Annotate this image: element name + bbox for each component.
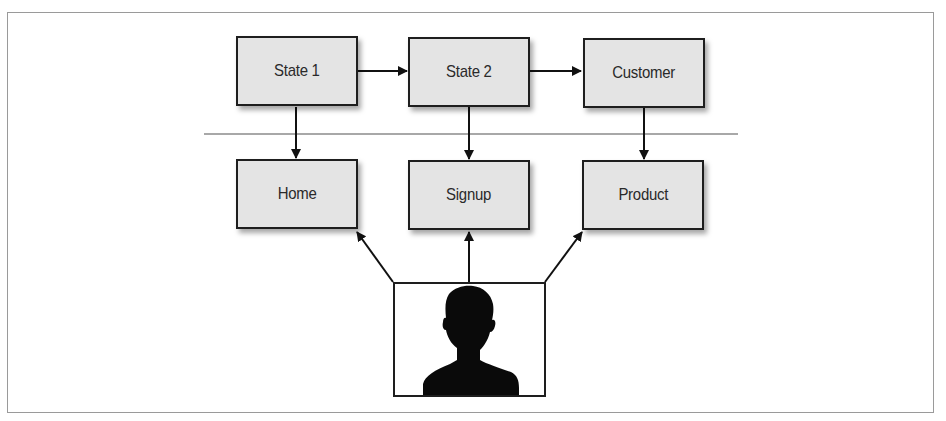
node-label: Product xyxy=(618,185,668,205)
node-state-1: State 1 xyxy=(236,36,358,106)
node-label: State 2 xyxy=(446,62,492,82)
node-label: Home xyxy=(278,184,317,204)
arrow-user-to-home xyxy=(357,232,393,282)
node-customer: Customer xyxy=(583,38,705,108)
node-home: Home xyxy=(236,159,358,229)
node-product: Product xyxy=(582,160,704,230)
node-label: Signup xyxy=(446,185,491,205)
node-label: State 1 xyxy=(274,61,320,81)
arrow-user-to-product xyxy=(545,232,582,282)
user-actor-box xyxy=(393,282,546,397)
node-signup: Signup xyxy=(408,160,530,230)
node-label: Customer xyxy=(613,63,676,83)
person-silhouette-icon xyxy=(395,284,544,395)
node-state-2: State 2 xyxy=(408,37,530,107)
